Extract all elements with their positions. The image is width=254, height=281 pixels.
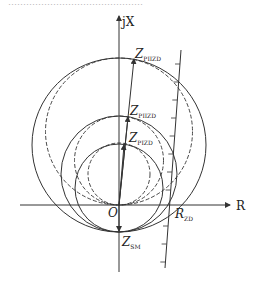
r-zd-line [165,50,181,268]
r-axis-label: R [236,199,246,213]
z-sm-label: ZSM [121,235,141,250]
top-caption-fragment: ……………………………………… [8,0,143,7]
z-small-vector [119,145,124,205]
r-zd-label: RZD [174,207,193,222]
origin-label: O [108,206,118,220]
jx-axis-label: jX [120,15,135,29]
z-mid-label: ZPIIZD [129,104,156,119]
z-large-label: ZPIIZD [134,47,161,62]
z-small-label: ZPIZD [128,131,153,146]
impedance-diagram: ……………………………………… jX R ZPIIZD ZPIIZD ZPIZD… [0,0,254,281]
